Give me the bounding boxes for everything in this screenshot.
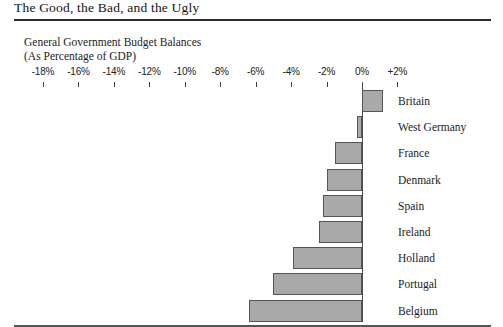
axis-tick-label: +2%	[388, 66, 408, 77]
axis-tick-label: -16%	[67, 66, 90, 77]
bar-britain	[362, 90, 383, 112]
axis-tick-label: -2%	[318, 66, 335, 77]
bar-category-label: West Germany	[398, 116, 466, 138]
axis-tick-mark	[220, 82, 221, 87]
bar-portugal	[273, 273, 362, 295]
axis-tick-label: -12%	[138, 66, 161, 77]
axis-tick-mark	[78, 82, 79, 87]
bottom-divider	[14, 325, 491, 327]
bar-category-label: Denmark	[398, 169, 441, 191]
axis-tick-mark	[185, 82, 186, 87]
bar-ireland	[319, 221, 362, 243]
bar-west-germany	[357, 116, 362, 138]
bar-row: Belgium	[0, 300, 503, 322]
axis-tick-mark	[327, 82, 328, 87]
axis-tick-label: -4%	[283, 66, 300, 77]
bar-row: Portugal	[0, 273, 503, 295]
bar-denmark	[327, 169, 362, 191]
axis-tick-label: -14%	[103, 66, 126, 77]
axis-tick-label: -8%	[212, 66, 229, 77]
axis-tick-label: -18%	[32, 66, 55, 77]
bar-category-label: Britain	[398, 90, 430, 112]
bar-row: Holland	[0, 247, 503, 269]
bar-belgium	[249, 300, 362, 322]
axis-tick-label: -10%	[173, 66, 196, 77]
chart-plot-area: -18%-16%-14%-12%-10%-8%-6%-4%-2%0%+2%Bri…	[0, 0, 503, 327]
axis-tick-label: -6%	[247, 66, 264, 77]
bar-france	[335, 142, 362, 164]
axis-tick-mark	[114, 82, 115, 87]
bar-row: West Germany	[0, 116, 503, 138]
bar-category-label: Ireland	[398, 221, 431, 243]
axis-tick-mark	[149, 82, 150, 87]
axis-tick-mark	[397, 82, 398, 87]
bar-category-label: Spain	[398, 195, 424, 217]
bar-row: Ireland	[0, 221, 503, 243]
bar-row: Denmark	[0, 169, 503, 191]
bar-category-label: Portugal	[398, 273, 437, 295]
axis-tick-mark	[43, 82, 44, 87]
axis-tick-mark	[256, 82, 257, 87]
bar-holland	[293, 247, 362, 269]
bar-category-label: Belgium	[398, 300, 438, 322]
axis-tick-mark	[291, 82, 292, 87]
bar-row: Spain	[0, 195, 503, 217]
bar-category-label: France	[398, 142, 429, 164]
axis-tick-label: 0%	[355, 66, 369, 77]
bar-category-label: Holland	[398, 247, 435, 269]
bar-spain	[323, 195, 362, 217]
bar-row: France	[0, 142, 503, 164]
bar-row: Britain	[0, 90, 503, 112]
